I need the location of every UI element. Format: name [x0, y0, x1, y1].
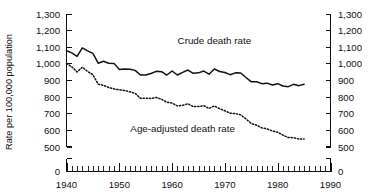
x-axis-ticks [68, 163, 332, 172]
y-label-right-900: 900 [338, 75, 354, 86]
y-axis-left-zero-label: 0 [55, 166, 60, 177]
y-axis-left-labels: 5006007008009001,0001,1001,2001,300 [36, 9, 60, 153]
y-label-right-500: 500 [338, 142, 354, 153]
y-label-left-1000: 1,000 [36, 58, 60, 69]
y-axis-title: Rate per 100,000 population [4, 34, 14, 150]
y-label-right-1200: 1,200 [338, 25, 362, 36]
y-axis-right-ticks [326, 15, 331, 148]
y-label-right-1100: 1,100 [338, 42, 362, 53]
chart-canvas: Rate per 100,000 population 500600700800… [0, 0, 368, 192]
x-label-1990: 1990 [320, 179, 341, 190]
y-label-left-1200: 1,200 [36, 25, 60, 36]
y-label-right-700: 700 [338, 108, 354, 119]
x-axis-labels: 194019501960197019801990 [56, 179, 341, 190]
y-axis-right-zero-label: 0 [338, 166, 343, 177]
y-axis-left-ticks [67, 15, 72, 148]
x-label-1960: 1960 [161, 179, 182, 190]
x-label-1950: 1950 [109, 179, 130, 190]
y-label-left-800: 800 [44, 92, 60, 103]
y-label-right-800: 800 [338, 92, 354, 103]
y-label-left-600: 600 [44, 125, 60, 136]
y-axis-right-labels: 5006007008009001,0001,1001,2001,300 [338, 9, 362, 153]
x-label-1940: 1940 [56, 179, 77, 190]
x-label-1980: 1980 [267, 179, 288, 190]
x-label-1970: 1970 [214, 179, 235, 190]
annotation-age-adjusted-death-rate: Age-adjusted death rate [130, 123, 235, 134]
death-rate-line-chart: Rate per 100,000 population 500600700800… [0, 0, 368, 192]
y-label-right-600: 600 [338, 125, 354, 136]
y-label-left-1300: 1,300 [36, 9, 60, 20]
y-label-left-500: 500 [44, 142, 60, 153]
y-label-left-900: 900 [44, 75, 60, 86]
crude-death-rate-line [67, 48, 305, 87]
y-label-left-700: 700 [44, 108, 60, 119]
y-label-right-1300: 1,300 [338, 9, 362, 20]
y-label-right-1000: 1,000 [338, 58, 362, 69]
annotation-crude-death-rate: Crude death rate [178, 35, 252, 46]
series-annotations: Crude death rateAge-adjusted death rate [130, 35, 251, 134]
y-label-left-1100: 1,100 [36, 42, 60, 53]
